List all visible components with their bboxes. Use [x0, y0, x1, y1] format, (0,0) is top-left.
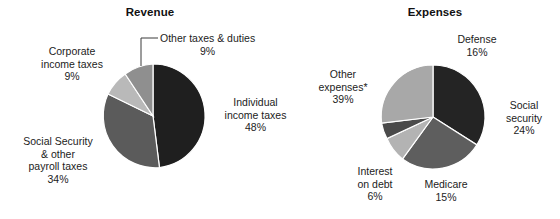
- revenue-leader-line-other-taxes: [141, 38, 158, 66]
- pie-charts-figure: Revenue Expenses Other taxes & duties 9%…: [0, 0, 560, 219]
- expenses-label-social-security: Social security 24%: [494, 99, 554, 137]
- expenses-label-defense-line1: Defense: [457, 33, 496, 45]
- expenses-label-medicare-line1: Medicare: [424, 178, 467, 190]
- expenses-slice-interest-on-debt: [382, 117, 433, 139]
- revenue-slice-other-taxes-and-duties: [125, 64, 153, 116]
- expenses-label-other-expenses: Other expenses* 39%: [305, 68, 381, 106]
- revenue-label-corporate-line1: Corporate: [49, 45, 96, 57]
- revenue-label-social-security-payroll-taxes: Social Security & other payroll taxes 34…: [8, 135, 108, 185]
- expenses-label-social-security-line1: Social: [510, 99, 539, 111]
- revenue-label-other-taxes-line1: Other taxes & duties: [160, 32, 255, 44]
- expenses-label-social-security-pct: 24%: [494, 124, 554, 137]
- expenses-label-interest-line2: on debt: [340, 178, 410, 191]
- revenue-label-corporate-pct: 9%: [22, 70, 122, 83]
- expenses-label-social-security-line2: security: [494, 112, 554, 125]
- expenses-label-medicare-pct: 15%: [411, 191, 481, 204]
- revenue-label-social-security-line3: payroll taxes: [8, 160, 108, 173]
- expenses-label-defense-pct: 16%: [443, 46, 511, 59]
- expenses-label-medicare: Medicare 15%: [411, 178, 481, 203]
- revenue-label-individual-line1: Individual: [233, 96, 277, 108]
- expenses-label-other-pct: 39%: [305, 93, 381, 106]
- revenue-label-social-security-pct: 34%: [8, 173, 108, 186]
- expenses-label-interest-pct: 6%: [340, 190, 410, 203]
- revenue-slice-individual-income-taxes: [153, 64, 205, 168]
- expenses-slice-defense: [433, 65, 485, 145]
- revenue-label-individual-line2: income taxes: [213, 109, 298, 122]
- expenses-slice-medicare: [387, 117, 433, 159]
- expenses-label-defense: Defense 16%: [443, 33, 511, 58]
- expenses-label-other-line2: expenses*: [305, 81, 381, 94]
- revenue-label-other-taxes-and-duties: Other taxes & duties 9%: [160, 32, 255, 57]
- revenue-label-social-security-line1: Social Security: [23, 135, 92, 147]
- revenue-label-social-security-line2: & other: [8, 148, 108, 161]
- expenses-chart-title: Expenses: [340, 6, 530, 18]
- revenue-label-corporate-income-taxes: Corporate income taxes 9%: [22, 45, 122, 83]
- revenue-label-individual-pct: 48%: [213, 121, 298, 134]
- expenses-label-interest-on-debt: Interest on debt 6%: [340, 165, 410, 203]
- revenue-slice-social-security-payroll-taxes: [103, 94, 159, 168]
- expenses-slice-social-security: [402, 117, 476, 169]
- expenses-label-interest-line1: Interest: [357, 165, 392, 177]
- expenses-label-other-line1: Other: [330, 68, 356, 80]
- revenue-label-corporate-line2: income taxes: [22, 58, 122, 71]
- revenue-label-individual-income-taxes: Individual income taxes 48%: [213, 96, 298, 134]
- revenue-label-other-taxes-pct: 9%: [160, 45, 255, 58]
- expenses-slice-other-expenses: [381, 65, 433, 123]
- revenue-chart-title: Revenue: [0, 6, 300, 18]
